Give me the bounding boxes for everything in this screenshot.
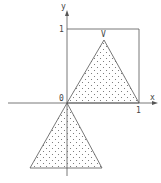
upper-triangle [67,40,139,103]
diagram-canvas: y x 0 1 1 V [0,0,161,183]
vertex-label: V [101,30,106,39]
lower-triangle [30,103,102,168]
x-axis-label: x [150,93,155,102]
origin-label: 0 [59,94,64,103]
x-tick-label: 1 [136,106,141,115]
y-tick-label: 1 [59,25,64,34]
y-axis-label: y [61,2,66,11]
